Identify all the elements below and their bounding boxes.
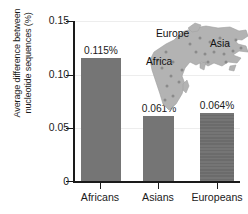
bar-asians xyxy=(143,116,174,181)
bar-label-africans: 0.115% xyxy=(72,45,130,56)
y-tick-label-0.10: 0.10 xyxy=(35,70,69,80)
y-tick-label-0.15: 0.15 xyxy=(35,16,69,26)
y-tickmark-0.10 xyxy=(66,75,73,76)
bar-europeans xyxy=(200,113,234,181)
y-tick-label-0: 0 xyxy=(35,177,69,187)
x-axis-line xyxy=(73,181,240,183)
y-tickmark-0 xyxy=(66,181,73,182)
x-axis-label-africans: Africans xyxy=(71,191,129,203)
y-tick-label-0.05: 0.05 xyxy=(35,123,69,133)
map-label-asia: Asia xyxy=(210,38,230,49)
x-tickmark-asians xyxy=(158,183,159,189)
world-map-inset: Europe Asia Africa xyxy=(138,18,248,114)
y-tickmark-0.15 xyxy=(66,21,73,22)
map-label-europe: Europe xyxy=(156,28,189,39)
x-tickmark-africans xyxy=(100,183,101,189)
y-tickmark-0.05 xyxy=(66,128,73,129)
y-axis-title-line-1: Average difference between xyxy=(12,0,23,143)
y-axis-tick-labels: 0.15 0.10 0.05 0 xyxy=(33,0,69,214)
x-axis-label-asians: Asians xyxy=(131,191,185,203)
x-tickmark-europeans xyxy=(217,183,218,189)
bar-africans xyxy=(81,58,121,181)
x-axis-label-europeans: Europeans xyxy=(185,191,248,203)
bar-chart-figure: Average difference between nucleotide se… xyxy=(0,0,248,214)
map-label-africa: Africa xyxy=(146,56,172,67)
